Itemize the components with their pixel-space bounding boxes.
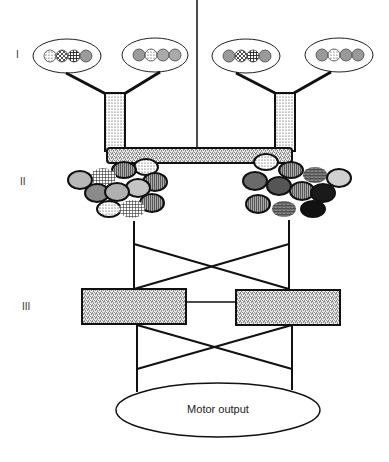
convergence-lines [66, 72, 331, 94]
network-diagram [0, 0, 389, 462]
right-cluster [243, 154, 351, 217]
level-3-label: III [22, 301, 30, 312]
level-1-label: I [16, 49, 19, 60]
right-stalk [275, 93, 295, 151]
level-3-box-right [236, 290, 340, 325]
input-group-3 [212, 39, 280, 73]
diagram-canvas: I II III Motor output [0, 0, 389, 462]
input-group-2 [122, 38, 188, 72]
input-group-1 [33, 39, 101, 73]
left-cluster [68, 159, 167, 218]
left-stalk [105, 93, 125, 151]
level-3-box-left [82, 289, 186, 324]
crossing-lines-upper [134, 220, 289, 290]
level-2-label: II [20, 176, 26, 187]
crossing-lines-lower [137, 325, 292, 392]
input-group-4 [305, 38, 373, 72]
motor-output-label: Motor output [158, 403, 278, 415]
